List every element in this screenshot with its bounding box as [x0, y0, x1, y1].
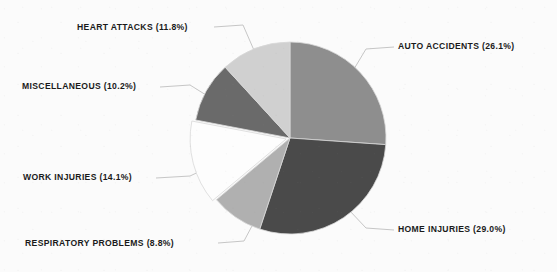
slice-label-miscellaneous: MISCELLANEOUS (10.2%): [22, 81, 136, 92]
pie-chart-figure: AUTO ACCIDENTS (26.1%) HOME INJURIES (29…: [0, 0, 557, 272]
pie-slice-auto-accidents: [290, 42, 386, 145]
slice-label-auto-accidents: AUTO ACCIDENTS (26.1%): [398, 41, 515, 52]
slice-label-work-injuries: WORK INJURIES (14.1%): [23, 172, 132, 183]
slice-label-respiratory-problems: RESPIRATORY PROBLEMS (8.8%): [25, 238, 174, 249]
slice-label-heart-attacks: HEART ATTACKS (11.8%): [77, 22, 188, 33]
pie-slices-group: [190, 42, 386, 234]
leader-line-home-injuries: [349, 210, 394, 230]
slice-label-home-injuries: HOME INJURIES (29.0%): [398, 224, 506, 235]
